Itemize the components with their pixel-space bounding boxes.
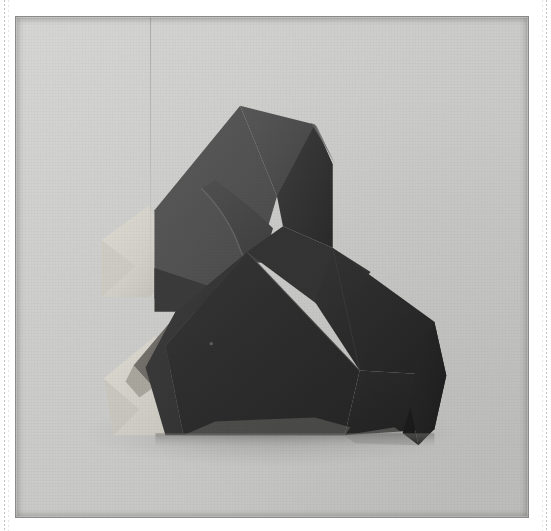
left-margin-rule-inner xyxy=(8,0,9,531)
contact-shadow xyxy=(155,433,434,447)
right-margin-rule xyxy=(546,0,547,531)
photo-plate xyxy=(15,16,529,518)
origami-photograph xyxy=(16,17,528,517)
paper-speck xyxy=(210,342,213,345)
page-header-strip xyxy=(0,0,551,9)
left-margin-rule xyxy=(4,0,5,531)
right-margin-rule-inner xyxy=(542,0,543,531)
